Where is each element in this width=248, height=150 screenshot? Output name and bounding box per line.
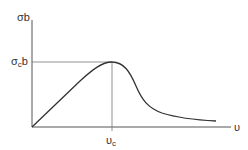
x-peak-label: υc (106, 135, 116, 148)
y-peak-label-tail: b (22, 55, 28, 67)
diagram-canvas (0, 0, 248, 150)
stress-curve (32, 62, 216, 127)
y-peak-label-main: σ (11, 55, 18, 67)
y-axis-label: σb (17, 12, 30, 23)
x-peak-label-sub: c (112, 139, 116, 148)
y-peak-label: σcb (11, 56, 28, 69)
x-axis-label: υ (234, 122, 240, 133)
